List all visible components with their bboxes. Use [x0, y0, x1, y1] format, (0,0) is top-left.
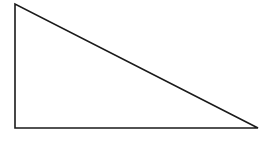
diagram-canvas [0, 0, 277, 143]
right-triangle [15, 4, 258, 128]
triangle-figure [0, 0, 277, 143]
